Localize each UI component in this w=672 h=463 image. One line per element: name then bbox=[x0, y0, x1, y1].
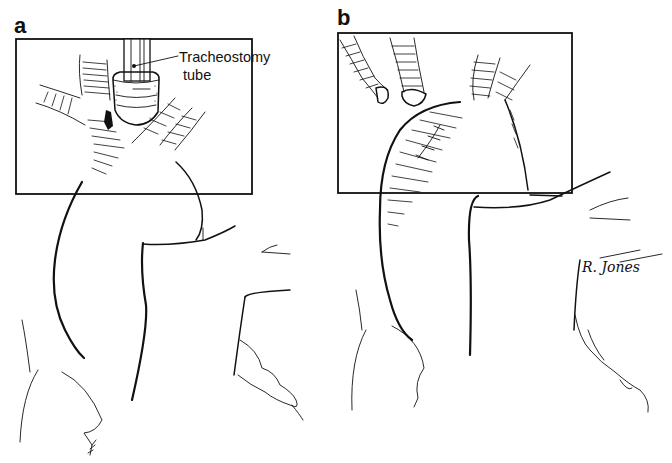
signature-text: R. Jones bbox=[581, 259, 640, 275]
operative-field-frame-b bbox=[338, 33, 572, 193]
artist-signature: R. Jones bbox=[574, 250, 662, 330]
surgical-illustration: a Tracheostomy tube bbox=[0, 0, 672, 463]
panel-a-label: a bbox=[14, 13, 27, 38]
callout-label-line1: Tracheostomy bbox=[179, 49, 271, 65]
panel-a: a Tracheostomy tube bbox=[14, 13, 303, 455]
callout-label-line2: tube bbox=[183, 67, 211, 83]
panel-a-arch bbox=[20, 162, 303, 455]
panel-b-lower-tissue bbox=[352, 290, 649, 412]
panel-b-label: b bbox=[337, 5, 350, 30]
panel-b: b bbox=[337, 5, 662, 412]
